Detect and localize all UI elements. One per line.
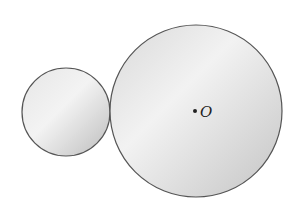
small-circle: [22, 68, 110, 156]
center-label: O: [200, 103, 212, 121]
center-point-o: [193, 109, 197, 113]
tangent-circles-diagram: O: [0, 0, 285, 204]
